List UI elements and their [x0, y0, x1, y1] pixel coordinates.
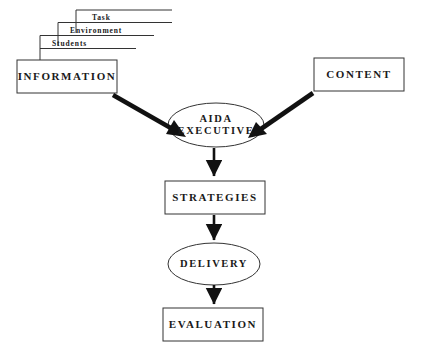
delivery-ellipse-shape: [168, 243, 260, 285]
evaluation-box-shape: [163, 308, 263, 341]
diagram-graphics: [0, 0, 423, 362]
diagram-canvas: Task Environment Students INFORMATION CO…: [0, 0, 423, 362]
cascade-shape-environment: [58, 23, 154, 47]
cascade-shape-students: [40, 36, 136, 61]
strategies-box-shape: [165, 181, 265, 214]
information-box-shape: [17, 60, 117, 93]
aida-executive-ellipse-shape: [168, 103, 264, 147]
content-box-shape: [314, 58, 404, 91]
cascade-shape-task: [76, 10, 172, 33]
